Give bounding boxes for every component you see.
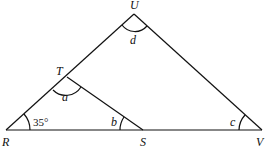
point-label-s: S bbox=[140, 135, 146, 148]
angle-arc-s bbox=[120, 117, 124, 130]
segment-ts bbox=[67, 77, 143, 130]
angle-label-b: b bbox=[111, 115, 117, 129]
point-label-t: T bbox=[56, 64, 64, 78]
angle-arc-v bbox=[239, 115, 245, 130]
angle-arc-r bbox=[24, 114, 30, 130]
geometry-diagram: U T R S V 35° a b c d bbox=[0, 0, 268, 148]
point-label-v: V bbox=[256, 135, 265, 148]
angle-label-d: d bbox=[130, 33, 137, 47]
point-label-u: U bbox=[130, 0, 140, 12]
angle-label-r: 35° bbox=[33, 116, 48, 128]
segment-uv bbox=[134, 14, 262, 130]
segment-ru bbox=[6, 14, 134, 130]
angle-label-a: a bbox=[62, 90, 68, 104]
angle-label-c: c bbox=[230, 115, 236, 129]
angle-arc-u bbox=[122, 25, 147, 32]
point-label-r: R bbox=[1, 135, 10, 148]
